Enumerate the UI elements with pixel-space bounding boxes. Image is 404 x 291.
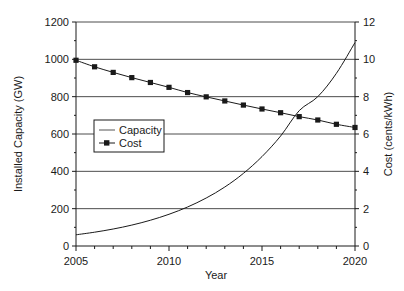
dual-axis-line-chart: 020040060080010001200 024681012 20052010… xyxy=(0,0,404,291)
tick-label-left: 600 xyxy=(51,128,69,140)
y-axis-title-left: Installed Capacity (GW) xyxy=(12,76,24,192)
y-axis-title-right: Cost (cents/kWh) xyxy=(382,92,394,176)
x-axis-title: Year xyxy=(205,269,228,281)
cost-data-point-marker xyxy=(166,85,171,90)
cost-data-point-marker xyxy=(352,125,357,130)
cost-data-point-marker xyxy=(334,122,339,127)
tick-label-right: 6 xyxy=(363,128,369,140)
chart-figure: 020040060080010001200 024681012 20052010… xyxy=(0,0,404,291)
cost-data-point-marker xyxy=(129,75,134,80)
tick-label-left: 800 xyxy=(51,91,69,103)
chart-background xyxy=(0,0,404,291)
tick-label-left: 1000 xyxy=(45,53,69,65)
tick-label-left: 200 xyxy=(51,203,69,215)
tick-label-right: 0 xyxy=(363,240,369,252)
tick-label-bottom: 2005 xyxy=(64,255,88,267)
cost-data-point-marker xyxy=(278,110,283,115)
tick-label-right: 10 xyxy=(363,53,375,65)
cost-data-point-marker xyxy=(315,117,320,122)
tick-label-right: 4 xyxy=(363,165,369,177)
cost-data-point-marker xyxy=(92,64,97,69)
tick-label-right: 8 xyxy=(363,91,369,103)
cost-data-point-marker xyxy=(73,58,78,63)
tick-label-bottom: 2010 xyxy=(157,255,181,267)
chart-legend: Capacity Cost xyxy=(94,120,164,152)
cost-data-point-marker xyxy=(297,114,302,119)
tick-label-right: 12 xyxy=(363,16,375,28)
cost-data-point-marker xyxy=(185,90,190,95)
legend-label-cost: Cost xyxy=(119,137,142,149)
cost-data-point-marker xyxy=(148,80,153,85)
tick-label-left: 1200 xyxy=(45,16,69,28)
cost-data-point-marker xyxy=(204,94,209,99)
tick-label-bottom: 2015 xyxy=(250,255,274,267)
tick-label-right: 2 xyxy=(363,203,369,215)
legend-marker-cost-square-icon xyxy=(104,140,109,145)
cost-data-point-marker xyxy=(259,106,264,111)
tick-label-left: 0 xyxy=(63,240,69,252)
cost-data-point-marker xyxy=(111,70,116,75)
tick-label-bottom: 2020 xyxy=(343,255,367,267)
cost-data-point-marker xyxy=(222,98,227,103)
tick-label-left: 400 xyxy=(51,165,69,177)
cost-data-point-marker xyxy=(241,102,246,107)
legend-label-capacity: Capacity xyxy=(119,124,162,136)
